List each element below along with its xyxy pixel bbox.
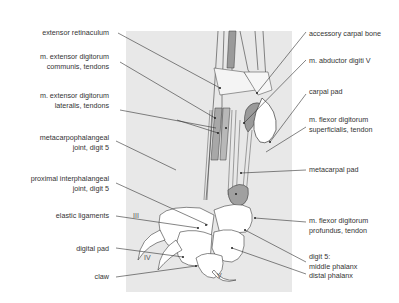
label-line: lateralis, tendons	[40, 101, 109, 111]
label-line: joint, digit 5	[40, 143, 109, 153]
label-line: superficialis, tendon	[309, 125, 373, 135]
label-line: m. flexor digitorum	[309, 115, 373, 125]
label-digital-pad: digital pad	[76, 244, 109, 254]
label-line: elastic ligaments	[56, 211, 109, 221]
label-ext-dig-lateralis: m. extensor digitorum lateralis, tendons	[40, 91, 109, 110]
label-line: communis, tendons	[40, 62, 109, 72]
label-line: digital pad	[76, 244, 109, 254]
digit-numeral-v: V	[217, 272, 222, 279]
label-carpal-pad: carpal pad	[309, 87, 343, 97]
label-line: m. flexor digitorum	[309, 216, 368, 226]
label-mcp-joint: metacarpophalangeal joint, digit 5	[40, 133, 109, 152]
label-elastic-ligaments: elastic ligaments	[56, 211, 109, 221]
label-line: m. abductor digiti V	[309, 56, 371, 66]
label-line: m. extensor digitorum	[40, 91, 109, 101]
label-line: claw	[95, 272, 109, 282]
shaded-tendon-icon	[227, 31, 236, 68]
label-pip-joint: proximal interphalangeal joint, digit 5	[31, 174, 109, 193]
label-line: metacarpal pad	[309, 165, 359, 175]
label-line: digit 5:	[309, 252, 357, 262]
label-claw: claw	[95, 272, 109, 282]
label-line: metacarpophalangeal	[40, 133, 109, 143]
label-flexor-superficialis: m. flexor digitorum superficialis, tendo…	[309, 115, 373, 134]
label-ext-dig-communis: m. extensor digitorum communis, tendons	[40, 52, 109, 71]
label-line: m. extensor digitorum	[40, 52, 109, 62]
label-line: proximal interphalangeal	[31, 174, 109, 184]
label-line: carpal pad	[309, 87, 343, 97]
label-metacarpal-pad: metacarpal pad	[309, 165, 359, 175]
label-line: profundus, tendon	[309, 226, 368, 236]
digit-numeral-iv: IV	[144, 254, 151, 261]
digit-numeral-iii: III	[133, 212, 139, 219]
label-line: accessory carpal bone	[309, 29, 381, 39]
label-line: joint, digit 5	[31, 184, 109, 194]
label-extensor-retinaculum: extensor retinaculum	[42, 28, 109, 38]
label-line: distal phalanx	[309, 271, 357, 281]
label-accessory-carpal: accessory carpal bone	[309, 29, 381, 39]
label-flexor-profundus: m. flexor digitorum profundus, tendon	[309, 216, 368, 235]
label-abductor-digiti-v: m. abductor digiti V	[309, 56, 371, 66]
label-line: extensor retinaculum	[42, 28, 109, 38]
label-digit5: digit 5: middle phalanx distal phalanx	[309, 252, 357, 281]
label-line: middle phalanx	[309, 262, 357, 272]
